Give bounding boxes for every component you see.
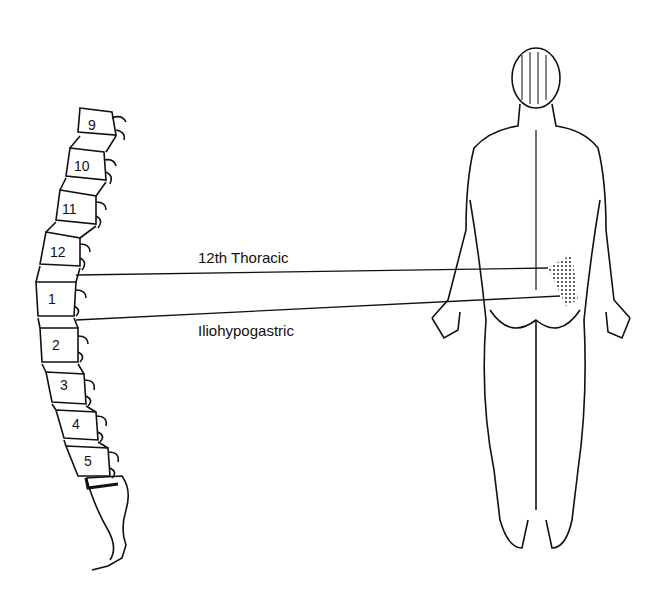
svg-text:5: 5 [84,453,92,469]
label-iliohypogastric: Iliohypogastric [198,322,294,339]
svg-text:10: 10 [74,158,90,174]
svg-text:2: 2 [52,337,60,353]
spine-illustration [36,108,128,570]
dermatome-diagram: 9 10 11 12 1 2 3 4 5 [0,0,658,608]
svg-text:3: 3 [60,377,68,393]
svg-text:12: 12 [50,244,66,260]
svg-text:1: 1 [48,291,56,307]
svg-text:9: 9 [88,117,96,133]
svg-text:4: 4 [72,416,80,432]
svg-text:11: 11 [62,201,77,217]
label-12th-thoracic: 12th Thoracic [198,249,289,266]
leader-lines [76,268,560,320]
vertebra-numbers: 9 10 11 12 1 2 3 4 5 [48,117,96,469]
line-12th-thoracic [76,268,548,275]
dermatome-shaded-area [548,254,578,306]
line-iliohypogastric [76,296,560,320]
